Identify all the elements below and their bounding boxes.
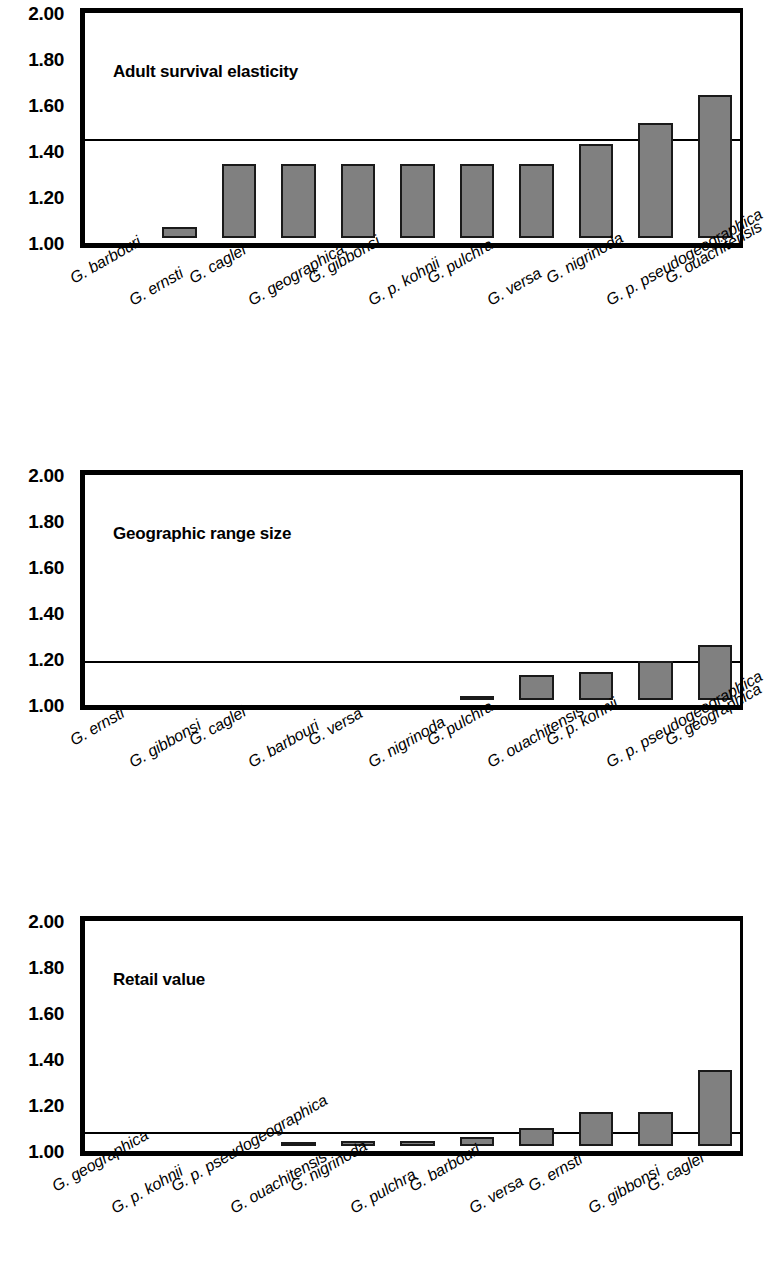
bar <box>519 1128 554 1146</box>
bar <box>400 1141 435 1146</box>
x-axis-labels-panel-1: G. ernstiG. gibbonsiG. cagleiG. barbouri… <box>80 720 743 850</box>
bar-series-panel-0 <box>85 13 743 243</box>
y-axis-tick-label: 2.00 <box>28 466 64 485</box>
x-axis-category-label: G. pulchra <box>347 1166 419 1218</box>
y-axis-tick-label: 1.00 <box>28 696 64 715</box>
x-axis-category-label: G. versa <box>484 264 545 309</box>
plot-area-panel-2 <box>80 916 743 1156</box>
x-axis-category-label: G. ernsti <box>525 1150 586 1195</box>
bar <box>638 1112 673 1147</box>
x-axis-labels-panel-2: G. geographicaG. p. kohniiG. p. pseudoge… <box>80 1166 743 1288</box>
y-axis-tick-label: 1.80 <box>28 958 64 977</box>
y-axis-panel-2: 1.001.201.401.601.802.00 <box>0 908 72 1278</box>
x-axis-category-label: G. ernsti <box>126 264 187 309</box>
y-axis-tick-label: 1.40 <box>28 142 64 161</box>
panel-title-geographic-range-size: Geographic range size <box>113 524 291 544</box>
bar <box>222 164 257 238</box>
bar <box>638 123 673 238</box>
bar <box>281 1142 316 1146</box>
chart-panel-geographic-range-size: 1.001.201.401.601.802.00 Geographic rang… <box>0 462 743 832</box>
bar <box>341 164 376 238</box>
y-axis-tick-label: 2.00 <box>28 912 64 931</box>
x-axis-category-label: G. ernsti <box>67 704 128 749</box>
y-axis-tick-label: 1.60 <box>28 558 64 577</box>
x-axis-category-label: G. versa <box>466 1172 527 1217</box>
y-axis-tick-label: 1.40 <box>28 604 64 623</box>
y-axis-tick-label: 1.80 <box>28 512 64 531</box>
bar <box>162 227 197 239</box>
y-axis-tick-label: 1.20 <box>28 650 64 669</box>
bar-series-panel-2 <box>85 921 743 1151</box>
y-axis-tick-label: 1.80 <box>28 50 64 69</box>
y-axis-tick-label: 1.20 <box>28 188 64 207</box>
panel-title-retail-value: Retail value <box>113 970 205 990</box>
bar <box>579 1112 614 1147</box>
bar <box>460 696 495 700</box>
bar <box>698 95 733 238</box>
y-axis-tick-label: 1.20 <box>28 1096 64 1115</box>
bar-series-panel-1 <box>85 475 743 705</box>
plot-area-panel-0 <box>80 8 743 248</box>
x-axis-labels-panel-0: G. barbouriG. ernstiG. cagleiG. geograph… <box>80 258 743 388</box>
bar <box>519 675 554 700</box>
y-axis-tick-label: 2.00 <box>28 4 64 23</box>
y-axis-panel-0: 1.001.201.401.601.802.00 <box>0 0 72 370</box>
bar <box>579 144 614 238</box>
bar <box>638 661 673 700</box>
bar <box>281 164 316 238</box>
bar <box>519 164 554 238</box>
chart-panel-retail-value: 1.001.201.401.601.802.00 Retail value G.… <box>0 908 743 1278</box>
y-axis-tick-label: 1.00 <box>28 1142 64 1161</box>
y-axis-tick-label: 1.60 <box>28 96 64 115</box>
y-axis-tick-label: 1.00 <box>28 234 64 253</box>
y-axis-tick-label: 1.60 <box>28 1004 64 1023</box>
bar <box>698 1070 733 1146</box>
bar <box>460 164 495 238</box>
panel-title-adult-survival-elasticity: Adult survival elasticity <box>113 62 298 82</box>
chart-panel-adult-survival-elasticity: 1.001.201.401.601.802.00 Adult survival … <box>0 0 743 370</box>
y-axis-tick-label: 1.40 <box>28 1050 64 1069</box>
plot-area-panel-1 <box>80 470 743 710</box>
y-axis-panel-1: 1.001.201.401.601.802.00 <box>0 462 72 832</box>
bar <box>400 164 435 238</box>
